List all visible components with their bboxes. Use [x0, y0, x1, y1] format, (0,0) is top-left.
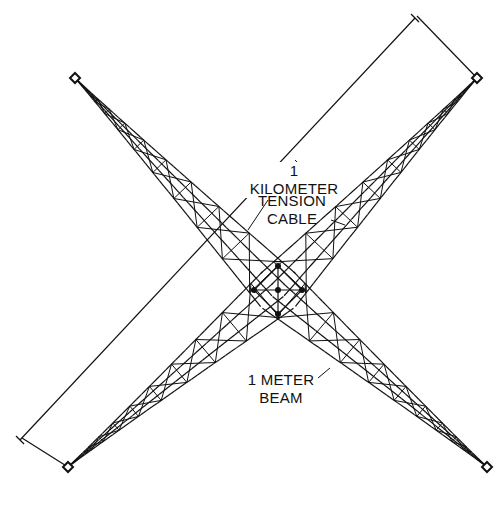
beam-chord	[359, 364, 364, 368]
beam-chord	[313, 278, 317, 284]
beam-chord	[418, 127, 423, 132]
beam-chord	[229, 215, 235, 220]
beam-chord	[299, 235, 304, 240]
beam-chord	[198, 214, 203, 219]
beam-chord	[205, 326, 210, 331]
beam-chord	[156, 375, 161, 380]
beam-chord	[196, 186, 202, 191]
beam-chord	[248, 336, 254, 340]
beam-chord	[288, 244, 293, 249]
beam-chord	[332, 343, 337, 347]
beam-chord	[195, 197, 200, 202]
beam-chord	[404, 163, 409, 169]
beam-chord	[390, 180, 395, 186]
label-tension: TENSION	[254, 192, 330, 210]
beam-chord	[176, 377, 181, 381]
beam-chord	[257, 239, 263, 244]
beam-chord	[197, 360, 202, 364]
beam-chord	[353, 360, 358, 364]
beam-chord	[232, 233, 237, 238]
beam-chord	[355, 348, 360, 353]
hub-strut	[254, 266, 278, 290]
beam-chord	[358, 375, 364, 379]
beam-chord	[344, 207, 349, 212]
beam-chord	[380, 371, 385, 376]
beam-chord	[380, 162, 385, 167]
beam-chord	[220, 355, 226, 359]
beam-brace	[222, 259, 282, 262]
beam-brace	[197, 227, 249, 233]
beam-chord	[409, 390, 414, 395]
beam-chord	[174, 167, 180, 172]
beam-brace	[196, 339, 246, 340]
beam-chord	[427, 135, 432, 141]
truss-node	[275, 263, 281, 269]
beam-chord	[225, 352, 231, 356]
beam-chord	[130, 127, 135, 132]
beam-chord	[375, 387, 381, 391]
beam-chord	[251, 235, 257, 240]
beam-chord	[395, 175, 400, 181]
beam-chord	[202, 356, 207, 360]
beam-chord	[146, 407, 152, 411]
beam-chord	[411, 140, 416, 145]
beam-chord	[146, 142, 152, 147]
beam-chord	[155, 175, 160, 181]
truss-node	[275, 311, 281, 317]
beam-chord	[242, 307, 247, 312]
beam-chord	[214, 316, 219, 321]
beam-chord	[209, 321, 214, 326]
label-beam: BEAM	[244, 389, 318, 407]
label-tension-cable: TENSION CABLE	[254, 192, 330, 228]
beam-chord	[277, 254, 282, 259]
beam-chord	[368, 209, 373, 215]
beam-chord	[188, 203, 193, 208]
beam-chord	[179, 171, 185, 176]
beam-chord	[361, 341, 366, 346]
beam-chord	[346, 326, 351, 331]
beam-chord	[168, 162, 174, 167]
beam-chord	[259, 328, 265, 332]
beam-chord	[337, 201, 342, 206]
beam-chord	[329, 325, 334, 330]
beam-chord	[303, 248, 308, 253]
beam-chord	[396, 147, 401, 152]
beam-chord	[141, 157, 146, 163]
beam-chord	[137, 394, 142, 399]
beam-chord	[267, 290, 272, 295]
beam-chord	[234, 296, 239, 301]
beam-chord	[233, 272, 238, 278]
beam-chord	[278, 301, 283, 305]
beam-chord	[273, 301, 278, 305]
beam-chord	[341, 363, 347, 367]
beam-chord	[413, 152, 418, 158]
beam-chord	[295, 301, 299, 307]
beam-chord	[309, 307, 314, 312]
beam-chord	[395, 375, 400, 380]
beam-chord	[234, 220, 240, 225]
beam-chord	[369, 171, 374, 176]
beam-chord	[240, 326, 245, 330]
beam-chord	[238, 258, 243, 263]
beam-chord	[318, 296, 323, 301]
beam-chord	[246, 322, 251, 326]
beam-chord	[132, 399, 137, 404]
beam-leader	[318, 368, 330, 378]
beam-chord	[278, 296, 283, 300]
beam-chord	[129, 419, 135, 423]
beam-chord	[254, 332, 260, 336]
beam-brace	[172, 363, 216, 365]
beam-chord	[365, 357, 370, 362]
beam-chord	[310, 326, 315, 330]
beam-chord	[201, 191, 207, 196]
beam-chord	[145, 163, 150, 169]
beam-chord	[164, 186, 169, 192]
beam-chord	[211, 334, 216, 339]
beam-chord	[302, 336, 308, 340]
beam-chord	[187, 215, 192, 221]
beam-chord	[242, 243, 247, 248]
beam-chord	[215, 249, 220, 255]
beam-chord	[361, 203, 366, 208]
beam-chord	[390, 380, 395, 385]
beam-chord	[193, 209, 198, 214]
